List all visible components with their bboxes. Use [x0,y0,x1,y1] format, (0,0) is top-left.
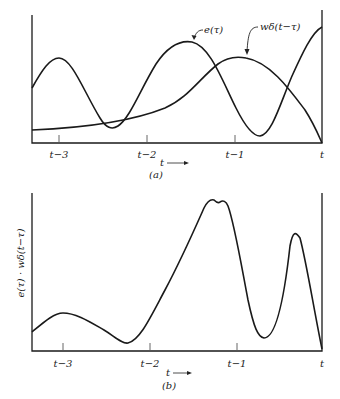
w-label-arrowhead [245,49,250,55]
panel-b-axes [32,193,322,351]
panel-b-caption: (b) [162,380,176,391]
panel-a-ticklabel-t-3: t−3 [50,149,69,160]
panel-b-arrowhead-icon [187,371,192,375]
panel-a-caption: (a) [149,169,163,180]
e-tau-label: e(τ) [204,24,223,35]
panel-b-ticklabel-t-3: t−3 [54,358,73,369]
panel-b: e(τ) · wδ(t−τ) t−3 t−2 t−1 t t (b) [15,193,325,391]
panel-a-ticklabel-t: t [320,149,325,160]
figure: e(τ) wδ(t−τ) t−3 t−2 t−1 t t (a) e(τ) · … [0,0,340,399]
panel-b-y-label: e(τ) · wδ(t−τ) [15,228,26,297]
panel-b-ticklabel-t-2: t−2 [141,358,160,369]
curve-e-tau [32,27,322,136]
w-label-pointer [247,27,258,52]
panel-b-ticklabel-t: t [320,358,325,369]
curve-w-delta [32,57,322,143]
panel-a-ticklabel-t-1: t−1 [226,149,245,160]
panel-a-arrowhead-icon [184,161,189,165]
panel-a-ticklabel-t-2: t−2 [138,149,157,160]
panel-b-ticklabel-t-1: t−1 [228,358,247,369]
panel-a-t-arrow-label: t [160,157,165,168]
w-delta-label: wδ(t−τ) [260,21,300,32]
panel-a: e(τ) wδ(t−τ) t−3 t−2 t−1 t t (a) [32,10,325,180]
e-label-arrowhead [192,35,197,40]
panel-b-t-arrow-label: t [166,367,171,378]
curve-product [32,200,322,349]
